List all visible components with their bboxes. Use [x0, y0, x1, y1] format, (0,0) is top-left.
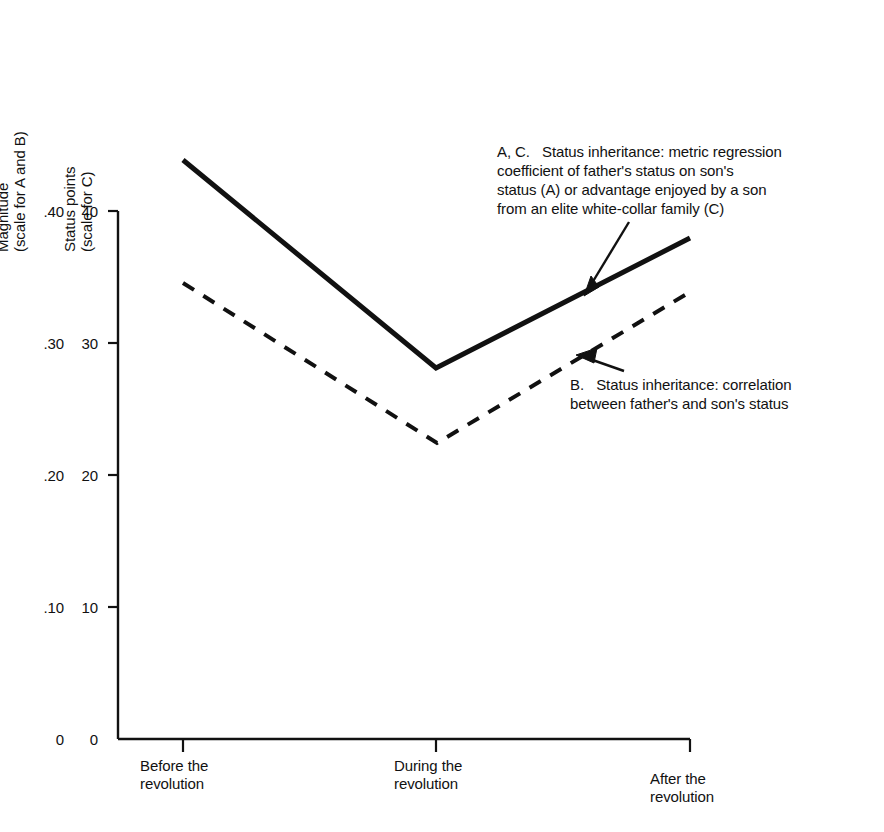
left-axis-title: Magnitude(scale for A and B): [0, 131, 28, 252]
annotation-b-line1: B. Status inheritance: correlation: [570, 376, 792, 393]
annotation-ac-line2: coefficient of father's status on son's: [497, 162, 734, 179]
chart-figure: Magnitude(scale for A and B) Status poin…: [0, 0, 884, 832]
category-before-line2: revolution: [140, 775, 204, 792]
annotation-ac-line3: status (A) or advantage enjoyed by a son: [497, 181, 767, 198]
right-tick-label-40: 40: [58, 203, 98, 220]
category-during-line1: During the: [394, 757, 462, 774]
right-tick-label-0: 0: [58, 731, 98, 748]
annotation-arrowhead-b: [576, 348, 597, 363]
left-axis-title-line1: Magnitude: [0, 183, 11, 252]
category-label-during: During therevolution: [394, 757, 462, 793]
annotation-b: B. Status inheritance: correlationbetwee…: [570, 375, 792, 413]
series-line-b: [183, 283, 690, 443]
annotation-arrowhead-ac: [584, 276, 599, 296]
category-before-line1: Before the: [140, 757, 208, 774]
category-label-before: Before therevolution: [140, 757, 208, 793]
annotation-b-line2: between father's and son's status: [570, 395, 788, 412]
category-after-line1: After the: [650, 770, 706, 787]
annotation-ac: A, C. Status inheritance: metric regress…: [497, 142, 782, 218]
category-after-line2: revolution: [650, 788, 714, 805]
right-tick-label-20: 20: [58, 467, 98, 484]
category-label-after: After therevolution: [650, 770, 714, 806]
chart-canvas: [0, 0, 884, 832]
annotation-ac-line1: A, C. Status inheritance: metric regress…: [497, 143, 782, 160]
category-during-line2: revolution: [394, 775, 458, 792]
right-tick-label-10: 10: [58, 599, 98, 616]
left-axis-title-line2: (scale for A and B): [11, 131, 28, 252]
right-tick-label-30: 30: [58, 335, 98, 352]
annotation-ac-line4: from an elite white-collar family (C): [497, 200, 724, 217]
